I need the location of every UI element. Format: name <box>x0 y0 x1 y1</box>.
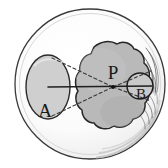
label-b: B <box>136 86 146 102</box>
point-p-marker <box>111 85 115 89</box>
diagram-figure: A P B <box>0 0 168 168</box>
diagram-canvas: A P B <box>0 0 168 168</box>
label-p: P <box>108 62 119 83</box>
label-a: A <box>38 100 52 121</box>
